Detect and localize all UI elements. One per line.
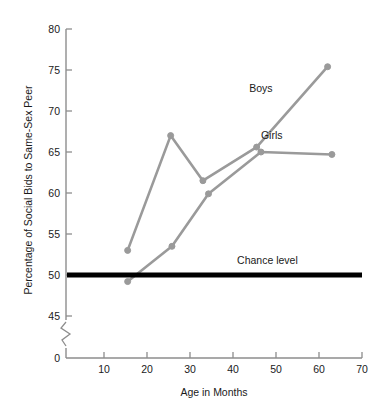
data-point-girls (205, 191, 211, 197)
y-axis-tick-label: 0 (54, 352, 60, 364)
x-axis-title: Age in Months (180, 386, 247, 398)
series-label-boys: Boys (249, 82, 272, 94)
x-axis-tick-label: 20 (141, 363, 153, 375)
x-axis-tick-label: 10 (98, 363, 110, 375)
y-axis-tick-label: 65 (48, 146, 60, 158)
x-axis-tick-label: 50 (270, 363, 282, 375)
data-point-boys (254, 144, 260, 150)
chart-container: 0455055606570758010203040506070BoysGirls… (0, 0, 379, 418)
data-point-girls (258, 149, 264, 155)
chance-level-label: Chance level (237, 254, 298, 266)
y-axis-tick-label: 80 (48, 23, 60, 35)
x-axis-tick-label: 40 (227, 363, 239, 375)
data-point-girls (169, 243, 175, 249)
line-chart: 0455055606570758010203040506070BoysGirls… (0, 0, 379, 418)
series-line-boys (128, 67, 328, 251)
x-axis-tick-label: 70 (356, 363, 368, 375)
data-point-boys (325, 64, 331, 70)
data-point-boys (200, 178, 206, 184)
y-axis-tick-label: 50 (48, 269, 60, 281)
x-axis-tick-label: 30 (184, 363, 196, 375)
data-point-boys (125, 247, 131, 253)
y-axis-tick-label: 55 (48, 228, 60, 240)
data-point-girls (125, 279, 131, 285)
data-point-boys (168, 133, 174, 139)
y-axis-tick-label: 45 (48, 310, 60, 322)
y-axis-tick-label: 70 (48, 105, 60, 117)
y-axis-tick-label: 75 (48, 64, 60, 76)
data-point-girls (329, 151, 335, 157)
x-axis-tick-label: 60 (313, 363, 325, 375)
y-axis-break-icon (61, 322, 70, 346)
series-label-girls: Girls (261, 129, 283, 141)
y-axis-title: Percentage of Social Bids to Same-Sex Pe… (22, 85, 34, 294)
y-axis-tick-label: 60 (48, 187, 60, 199)
